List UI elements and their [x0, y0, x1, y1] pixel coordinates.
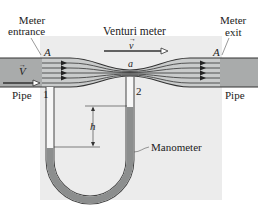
pipe-velocity-vector-mark: →	[19, 60, 26, 71]
throat-area-label: a	[128, 58, 133, 69]
meter-exit-label-line2: exit	[225, 27, 242, 38]
area-exit-label: A	[213, 47, 220, 58]
pipe-left-label: Pipe	[12, 90, 32, 101]
pipe-right-label: Pipe	[225, 90, 245, 101]
area-entrance-label: A	[44, 47, 51, 58]
pipe-right	[220, 58, 258, 87]
point-1-label: 1	[43, 89, 49, 100]
manometer-label: Manometer	[151, 142, 202, 153]
throat-velocity-vector-mark: →	[129, 34, 136, 45]
point-2-label: 2	[136, 86, 142, 97]
height-label: h	[90, 121, 96, 132]
meter-exit-label: Meter	[220, 15, 246, 26]
meter-entrance-label-line2: entrance	[8, 26, 45, 37]
